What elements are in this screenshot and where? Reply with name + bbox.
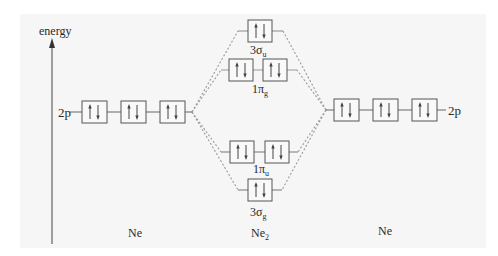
right-atom-label: Ne [378,225,392,237]
mo-1pi-u [221,141,298,163]
correlation-lines-left [192,31,238,190]
left-2p-label: 2p [58,106,71,119]
left-atom-label: Ne [128,227,142,239]
mo-3sigma-u [238,20,283,42]
energy-axis [49,38,55,244]
correlation-lines-right [282,31,326,190]
orbital-box [121,101,146,123]
orbital-box [412,99,437,121]
mo-label-3sigma-g: 3σg [250,206,266,221]
right-2p-orbitals [326,99,446,121]
mo-label-1pi-g: 1πg [252,83,268,98]
arrow-up-icon [49,38,55,48]
right-2p-label: 2p [448,104,461,117]
mo-diagram [0,0,498,256]
left-2p-orbitals [70,101,192,123]
orbital-box [82,101,107,123]
orbital-box [373,99,398,121]
mo-label-3sigma-u: 3σu [250,44,266,59]
energy-axis-label: energy [39,25,71,37]
orbital-box [160,101,185,123]
mo-3sigma-g [238,179,282,201]
molecule-label: Ne2 [251,227,269,242]
mo-label-1pi-u: 1πu [253,163,269,178]
mo-1pi-g [221,59,297,81]
orbital-box [334,99,359,121]
